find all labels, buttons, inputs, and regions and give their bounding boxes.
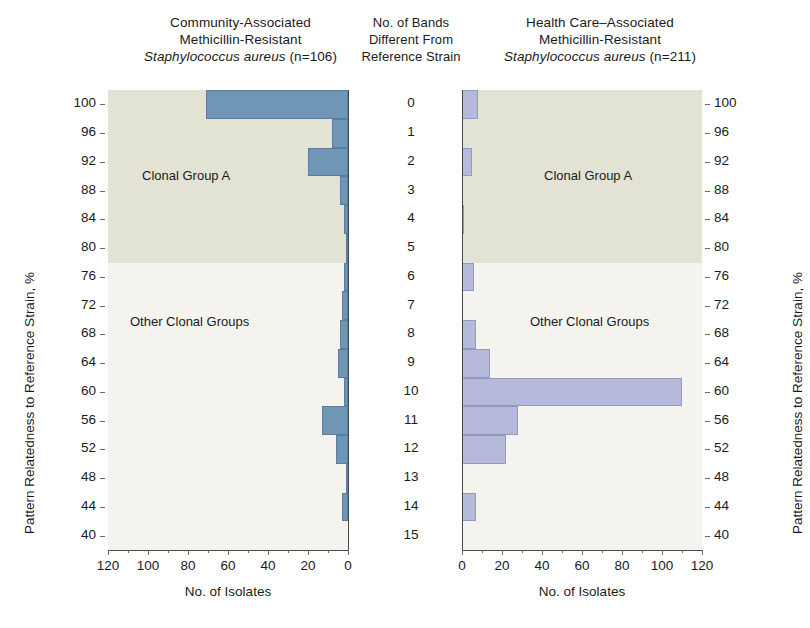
left-y-tick-label-44: 44 [46,498,96,513]
right-y-tick-60 [705,392,710,393]
left-panel-species: Staphylococcus aureus [144,49,286,64]
left-y-tick-52 [100,449,105,450]
left-panel-title-line-1: Community-Associated [118,14,363,31]
left-panel-title: Community-Associated Methicillin-Resista… [118,14,363,65]
left-y-tick-label-68: 68 [46,325,96,340]
right-panel-title-line-1: Health Care–Associated [460,14,740,31]
left-panel-n: (n=106) [286,49,337,64]
right-y-tick-52 [705,449,710,450]
right-y-tick-label-96: 96 [714,124,764,139]
bar-8 [340,320,348,349]
right-panel-n: (n=211) [646,49,696,64]
band-count-0: 0 [356,95,466,110]
left-y-tick-label-100: 100 [46,95,96,110]
bar-12 [462,435,506,464]
right-x-tick-80 [622,550,623,555]
right-x-axis-title: No. of Isolates [462,584,702,599]
bar-12 [336,435,348,464]
right-x-minor-tick-70 [602,550,603,553]
left-panel-title-line-2: Methicillin-Resistant [118,31,363,48]
left-y-tick-label-76: 76 [46,268,96,283]
right-y-tick-label-64: 64 [714,354,764,369]
left-y-tick-label-96: 96 [46,124,96,139]
left-x-minor-tick-30 [288,550,289,553]
bar-9 [338,349,348,378]
right-y-tick-label-40: 40 [714,527,764,542]
left-y-tick-72 [100,306,105,307]
left-x-tick-120 [108,550,109,555]
left-y-tick-92 [100,162,105,163]
band-count-11: 11 [356,412,466,427]
left-y-tick-label-56: 56 [46,412,96,427]
middle-title-line-3: Reference Strain [356,48,466,65]
left-y-tick-60 [100,392,105,393]
left-y-axis-title: Pattern Relatedness to Reference Strain,… [22,272,37,534]
right-y-tick-40 [705,536,710,537]
right-y-tick-label-76: 76 [714,268,764,283]
left-y-tick-label-48: 48 [46,469,96,484]
right-x-tick-120 [702,550,703,555]
left-zone-label-other: Other Clonal Groups [130,314,249,329]
right-y-tick-80 [705,248,710,249]
left-y-tick-88 [100,191,105,192]
left-panel-title-line-3: Staphylococcus aureus (n=106) [118,48,363,65]
left-x-axis-title: No. of Isolates [108,584,348,599]
bar-11 [322,406,348,435]
band-count-3: 3 [356,182,466,197]
right-x-minor-tick-30 [522,550,523,553]
right-y-tick-48 [705,478,710,479]
left-y-tick-label-72: 72 [46,297,96,312]
right-y-tick-label-48: 48 [714,469,764,484]
right-y-tick-72 [705,306,710,307]
band-count-5: 5 [356,239,466,254]
right-x-minor-tick-10 [482,550,483,553]
left-y-tick-76 [100,277,105,278]
band-count-8: 8 [356,325,466,340]
figure-root: Community-Associated Methicillin-Resista… [0,0,810,628]
band-count-4: 4 [356,210,466,225]
left-y-tick-44 [100,507,105,508]
bar-3 [340,176,348,205]
left-y-tick-40 [100,536,105,537]
left-x-tick-60 [228,550,229,555]
left-x-minor-tick-10 [328,550,329,553]
bar-11 [462,406,518,435]
left-x-minor-tick-50 [248,550,249,553]
middle-column-title: No. of Bands Different From Reference St… [356,14,466,65]
band-count-10: 10 [356,383,466,398]
left-y-tick-64 [100,363,105,364]
middle-title-line-2: Different From [356,31,466,48]
left-y-tick-68 [100,334,105,335]
right-x-tick-label-120: 120 [678,558,726,573]
left-y-tick-label-80: 80 [46,239,96,254]
band-count-12: 12 [356,440,466,455]
right-x-tick-20 [502,550,503,555]
right-x-tick-40 [542,550,543,555]
right-panel-title-line-3: Staphylococcus aureus (n=211) [460,48,740,65]
right-y-tick-label-88: 88 [714,182,764,197]
left-y-tick-100 [100,104,105,105]
right-y-tick-label-84: 84 [714,210,764,225]
right-x-tick-0 [462,550,463,555]
right-y-tick-64 [705,363,710,364]
left-x-tick-label-0: 0 [324,558,372,573]
right-y-tick-label-52: 52 [714,440,764,455]
left-x-tick-40 [268,550,269,555]
right-y-tick-label-44: 44 [714,498,764,513]
right-y-tick-68 [705,334,710,335]
right-zone-label-clonal-a: Clonal Group A [544,168,632,183]
left-y-tick-96 [100,133,105,134]
left-y-tick-56 [100,421,105,422]
left-x-tick-80 [188,550,189,555]
bar-2 [308,148,348,177]
left-chart-panel: Clonal Group A Other Clonal Groups [108,90,348,550]
right-y-tick-56 [705,421,710,422]
right-y-tick-88 [705,191,710,192]
right-y-tick-100 [705,104,710,105]
right-y-tick-92 [705,162,710,163]
left-y-tick-48 [100,478,105,479]
band-count-7: 7 [356,297,466,312]
band-count-13: 13 [356,469,466,484]
right-y-tick-44 [705,507,710,508]
left-y-tick-label-92: 92 [46,153,96,168]
